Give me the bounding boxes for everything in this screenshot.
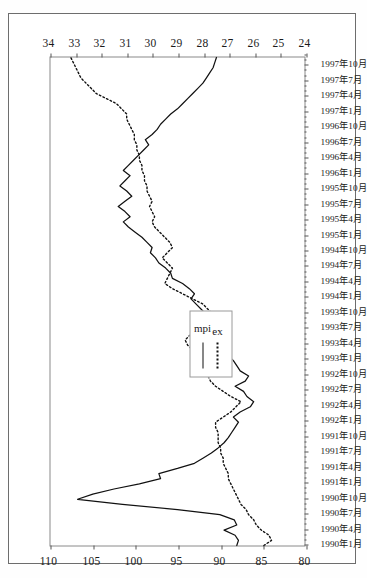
axis-label-right-28: 28 — [191, 37, 213, 49]
tick-x-minor — [305, 323, 307, 324]
axis-label-x-1997年4月: 1997年4月 — [321, 87, 363, 101]
tick-x-minor — [305, 153, 307, 154]
axis-label-right-34: 34 — [38, 37, 60, 49]
axis-label-x-1995年7月: 1995年7月 — [321, 195, 363, 209]
axis-label-left-80: 80 — [294, 555, 316, 567]
tick-x-major — [305, 65, 309, 66]
legend-swatch-solid-icon — [202, 342, 203, 368]
axis-label-right-32: 32 — [89, 37, 111, 49]
tick-x-major — [305, 421, 309, 422]
tick-x-minor — [305, 447, 307, 448]
tick-x-minor — [305, 199, 307, 200]
tick-right-axis — [307, 54, 308, 58]
tick-x-minor — [305, 91, 307, 92]
tick-x-major — [305, 374, 309, 375]
axis-label-x-1990年7月: 1990年7月 — [321, 505, 363, 519]
tick-x-minor — [305, 137, 307, 138]
tick-right-axis — [76, 54, 77, 58]
axis-label-x-1996年10月: 1996年10月 — [321, 118, 367, 132]
tick-x-minor — [305, 302, 307, 303]
axis-label-right-25: 25 — [268, 37, 290, 49]
tick-right-axis — [204, 54, 205, 58]
tick-right-axis — [153, 54, 154, 58]
axis-label-left-90: 90 — [208, 555, 230, 567]
tick-x-minor — [305, 85, 307, 86]
axis-label-right-33: 33 — [63, 37, 85, 49]
axis-label-x-1992年1月: 1992年1月 — [321, 412, 363, 426]
tick-right-axis — [127, 54, 128, 58]
tick-x-minor — [305, 534, 307, 535]
tick-x-minor — [305, 369, 307, 370]
tick-x-minor — [305, 410, 307, 411]
tick-x-major — [305, 189, 309, 190]
axis-label-right-31: 31 — [114, 37, 136, 49]
axis-label-x-1993年4月: 1993年4月 — [321, 334, 363, 348]
axis-label-x-1991年4月: 1991年4月 — [321, 458, 363, 472]
axis-label-left-95: 95 — [166, 555, 188, 567]
tick-x-major — [305, 235, 309, 236]
tick-x-minor — [305, 276, 307, 277]
axis-label-x-1994年1月: 1994年1月 — [321, 288, 363, 302]
tick-x-major — [305, 405, 309, 406]
tick-x-minor — [305, 287, 307, 288]
tick-right-axis — [102, 54, 103, 58]
tick-x-minor — [305, 214, 307, 215]
axis-label-x-1995年1月: 1995年1月 — [321, 226, 363, 240]
tick-left-axis — [136, 546, 137, 550]
tick-x-minor — [305, 364, 307, 365]
axis-label-right-30: 30 — [140, 37, 162, 49]
tick-x-minor — [305, 318, 307, 319]
tick-x-minor — [305, 168, 307, 169]
rotated-chart-wrapper: 808590951001051102425262728293031323334 … — [10, 14, 358, 565]
tick-right-axis — [281, 54, 282, 58]
tick-x-minor — [305, 183, 307, 184]
axis-label-x-1992年4月: 1992年4月 — [321, 396, 363, 410]
legend-entry-mpi: mpi — [195, 319, 210, 368]
axis-label-right-26: 26 — [242, 37, 264, 49]
tick-x-minor — [305, 230, 307, 231]
tick-x-major — [305, 297, 309, 298]
tick-x-minor — [305, 338, 307, 339]
tick-x-minor — [305, 194, 307, 195]
tick-x-minor — [305, 122, 307, 123]
tick-x-minor — [305, 101, 307, 102]
tick-x-minor — [305, 333, 307, 334]
tick-x-minor — [305, 488, 307, 489]
tick-x-major — [305, 452, 309, 453]
tick-x-minor — [305, 503, 307, 504]
axis-label-left-105: 105 — [80, 555, 102, 567]
axis-label-right-27: 27 — [217, 37, 239, 49]
tick-x-major — [305, 529, 309, 530]
tick-x-minor — [305, 225, 307, 226]
tick-right-axis — [230, 54, 231, 58]
axis-label-x-1997年7月: 1997年7月 — [321, 71, 363, 85]
axis-label-x-1991年1月: 1991年1月 — [321, 474, 363, 488]
tick-left-axis — [307, 546, 308, 550]
tick-right-axis — [179, 54, 180, 58]
tick-x-major — [305, 173, 309, 174]
tick-x-major — [305, 467, 309, 468]
legend-label-ex: ex — [212, 325, 222, 337]
tick-x-minor — [305, 116, 307, 117]
axis-label-x-1994年7月: 1994年7月 — [321, 257, 363, 271]
tick-x-minor — [305, 292, 307, 293]
axis-label-x-1996年1月: 1996年1月 — [321, 164, 363, 178]
tick-x-major — [305, 514, 309, 515]
tick-x-minor — [305, 240, 307, 241]
tick-x-minor — [305, 462, 307, 463]
axis-label-x-1997年1月: 1997年1月 — [321, 102, 363, 116]
tick-x-minor — [305, 379, 307, 380]
tick-x-major — [305, 436, 309, 437]
series-line-ex — [71, 58, 272, 546]
tick-x-major — [305, 266, 309, 267]
tick-left-axis — [179, 546, 180, 550]
tick-x-minor — [305, 539, 307, 540]
tick-x-minor — [305, 75, 307, 76]
axis-label-x-1997年10月: 1997年10月 — [321, 56, 367, 70]
tick-x-minor — [305, 472, 307, 473]
tick-x-major — [305, 545, 309, 546]
tick-x-major — [305, 343, 309, 344]
tick-x-minor — [305, 457, 307, 458]
tick-x-minor — [305, 106, 307, 107]
axis-label-right-24: 24 — [294, 37, 316, 49]
